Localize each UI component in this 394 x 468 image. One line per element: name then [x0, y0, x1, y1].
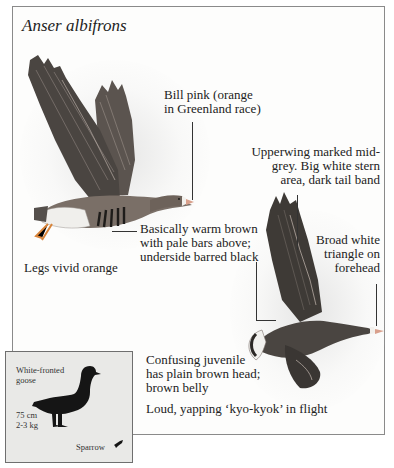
sparrow-silhouette-icon	[6, 352, 134, 464]
leader-line-upperwing	[297, 195, 298, 250]
annotation-legs: Legs vivid orange	[24, 261, 118, 275]
annotation-forehead: Broad white triangle on forehead	[300, 233, 380, 275]
annotation-juvenile: Confusing juvenile has plain brown head;…	[146, 353, 260, 395]
leader-line-body	[112, 231, 137, 232]
leader-line-body-vertical	[256, 262, 257, 320]
leader-line-bill	[192, 122, 193, 200]
annotation-upperwing: Upperwing marked mid- grey. Big white st…	[246, 145, 380, 187]
size-comparison-box: White-fronted goose 75 cm 2-3 kg Sparrow	[5, 351, 133, 463]
annotation-bill: Bill pink (orange in Greenland race)	[164, 88, 261, 116]
annotation-call: Loud, yapping ‘kyo-kyok’ in flight	[146, 402, 327, 416]
frame-bottom-edge	[133, 434, 385, 435]
leader-line-body-horizontal	[256, 320, 276, 321]
leader-line-forehead	[376, 284, 377, 326]
annotation-body: Basically warm brown with pale bars abov…	[140, 222, 258, 264]
